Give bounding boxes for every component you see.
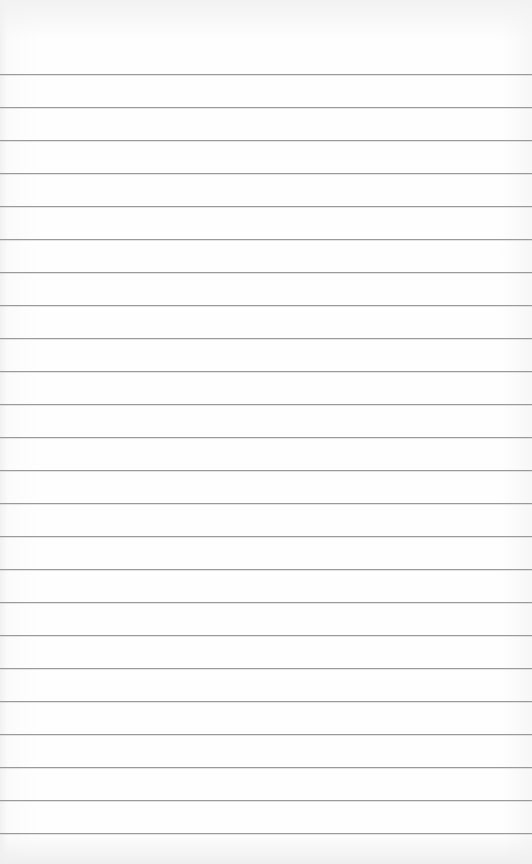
ruled-line xyxy=(0,107,532,108)
lined-paper xyxy=(0,0,532,864)
ruled-line xyxy=(0,338,532,339)
ruled-line xyxy=(0,140,532,141)
ruled-line xyxy=(0,536,532,537)
ruled-line xyxy=(0,734,532,735)
ruled-line xyxy=(0,503,532,504)
ruled-line xyxy=(0,701,532,702)
ruled-line xyxy=(0,173,532,174)
ruled-line xyxy=(0,206,532,207)
paper-bottom-edge xyxy=(0,834,532,864)
ruled-line xyxy=(0,74,532,75)
ruled-line xyxy=(0,767,532,768)
ruled-line xyxy=(0,470,532,471)
ruled-line xyxy=(0,272,532,273)
ruled-line xyxy=(0,305,532,306)
ruled-line xyxy=(0,404,532,405)
ruled-line xyxy=(0,239,532,240)
ruled-line xyxy=(0,569,532,570)
ruled-line xyxy=(0,668,532,669)
ruled-line xyxy=(0,635,532,636)
ruled-line xyxy=(0,371,532,372)
ruled-line xyxy=(0,437,532,438)
ruled-line xyxy=(0,602,532,603)
paper-top-edge xyxy=(0,0,532,40)
ruled-line xyxy=(0,800,532,801)
